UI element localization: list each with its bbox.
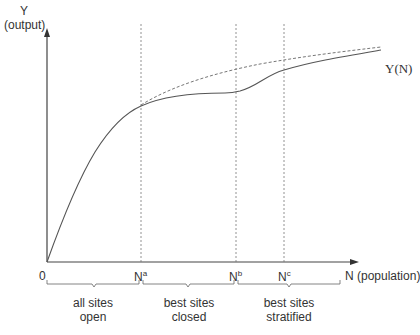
curve-label-yn: Y(N) [385, 62, 412, 75]
region-label-best-sites-stratified: best sites stratified [256, 297, 322, 323]
tick-nb-sup: b [238, 269, 242, 278]
region-label-best-sites-closed: best sites closed [156, 297, 222, 323]
region-1-line1: all sites [63, 297, 123, 309]
region-2-line2: closed [156, 311, 222, 323]
tick-label-nc: Nc [278, 270, 291, 283]
tick-label-na: Na [134, 270, 147, 283]
brace-all-sites-open [47, 280, 139, 287]
x-axis-arrow-icon [350, 259, 359, 265]
x-axis-label: N (population) [345, 270, 420, 282]
y-axis-label: Y (output) [4, 5, 44, 31]
brace-best-sites-closed [143, 280, 234, 287]
tick-nc-sup: c [287, 269, 291, 278]
tick-label-nb: Nb [229, 270, 242, 283]
output-curve-yn [47, 50, 381, 262]
y-axis-label-text: (output) [4, 19, 44, 31]
y-axis-label-symbol: Y [4, 5, 44, 17]
region-2-line1: best sites [156, 297, 222, 309]
region-3-line1: best sites [256, 297, 322, 309]
tick-nb-base: N [229, 270, 238, 284]
tick-na-sup: a [143, 269, 147, 278]
region-1-line2: open [63, 311, 123, 323]
region-label-all-sites-open: all sites open [63, 297, 123, 323]
tick-nc-base: N [278, 270, 287, 284]
origin-label: 0 [39, 270, 46, 282]
region-3-line2: stratified [256, 311, 322, 323]
tick-na-base: N [134, 270, 143, 284]
